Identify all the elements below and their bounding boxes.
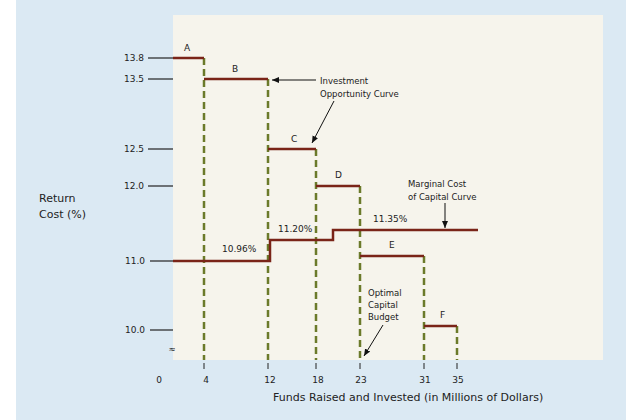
mcc-annotation-line2: of Capital Curve [408,192,476,202]
y-axis-label-line2: Cost (%) [39,208,86,221]
x-axis-label: Funds Raised and Invested (in Millions o… [273,391,543,404]
axis-break-symbol: ≈ [168,344,175,354]
project-label-f: F [440,310,445,320]
y-axis-labels: 13.8 13.5 12.5 12.0 11.0 10.0 [124,53,145,335]
x-tick-4: 4 [203,375,209,385]
y-tick-11.0: 11.0 [125,256,145,266]
y-axis-ticks [148,58,173,330]
mcc-label-1096: 10.96% [222,244,257,254]
x-tick-31: 31 [419,375,430,385]
y-tick-10.0: 10.0 [125,325,145,335]
y-tick-13.8: 13.8 [124,53,144,63]
y-axis-label-line1: Return [39,192,76,205]
ioc-label-line1: Investment [320,76,369,86]
project-labels: A B C D E F [184,43,445,320]
x-tick-18: 18 [312,375,324,385]
x-axis-labels: 0 4 12 18 23 31 35 [156,375,464,385]
project-label-e: E [389,240,395,250]
mcc-annotation-line1: Marginal Cost [408,179,467,189]
y-tick-12.5: 12.5 [124,144,144,154]
capital-budgeting-chart: 13.8 13.5 12.5 12.0 11.0 10.0 ≈ Return C… [0,0,626,420]
x-tick-23: 23 [355,375,366,385]
ocb-arrow [364,325,383,356]
x-axis-ticks [204,363,457,369]
y-tick-13.5: 13.5 [124,74,144,84]
ioc-arrow-to-c [312,101,334,143]
ocb-label-line1: Optimal [368,288,402,298]
mcc-label-1120: 11.20% [278,224,313,234]
project-label-b: B [232,64,238,74]
mcc-label-1135: 11.35% [373,214,408,224]
x-tick-35: 35 [452,375,463,385]
ocb-label-line3: Budget [368,312,399,322]
dashed-project-boundaries [204,58,457,360]
ocb-label-line2: Capital [368,300,398,310]
x-tick-0: 0 [156,375,162,385]
project-label-d: D [335,170,342,180]
marginal-cost-of-capital-curve [173,230,478,261]
project-label-a: A [184,43,191,53]
y-tick-12.0: 12.0 [124,181,144,191]
ioc-label-line2: Opportunity Curve [320,89,399,99]
project-label-c: C [291,134,297,144]
x-tick-12: 12 [264,375,275,385]
